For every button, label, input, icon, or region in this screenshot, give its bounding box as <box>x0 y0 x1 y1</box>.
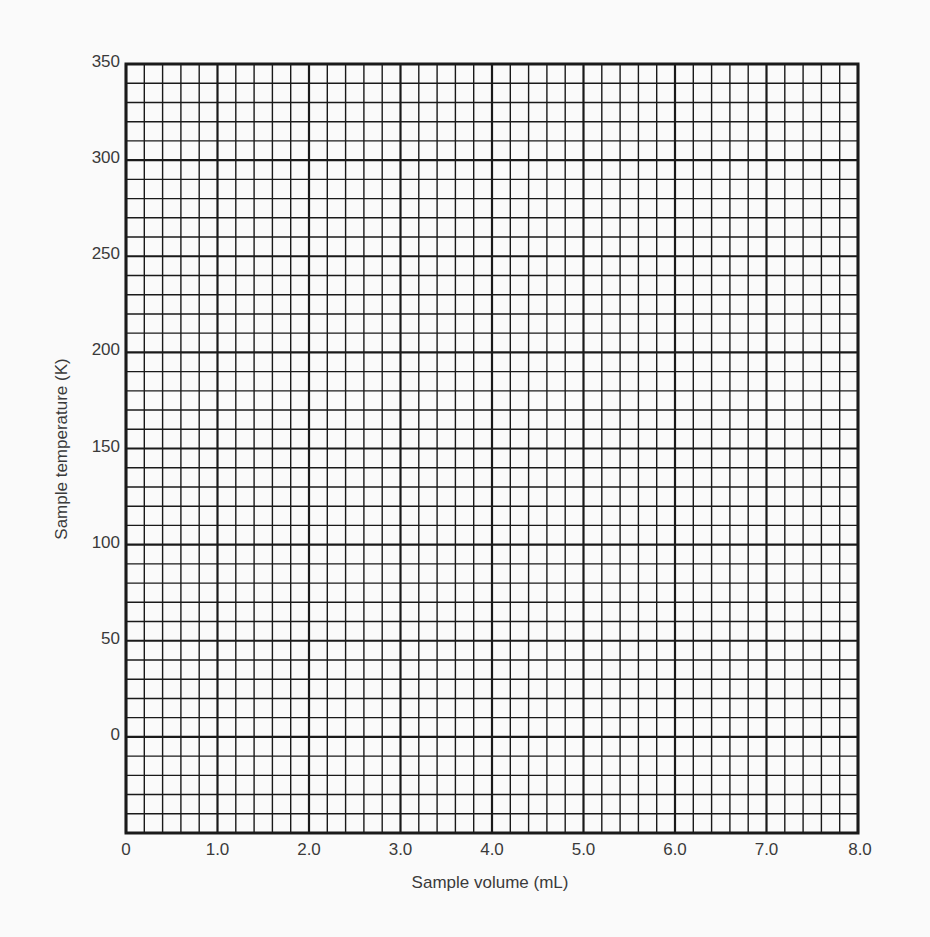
y-tick-label: 200 <box>70 340 120 360</box>
y-tick-label: 150 <box>70 437 120 457</box>
x-tick-label: 2.0 <box>279 840 339 860</box>
y-tick-label: 0 <box>70 725 120 745</box>
x-axis-label: Sample volume (mL) <box>412 873 569 893</box>
y-tick-label: 100 <box>70 533 120 553</box>
x-tick-label: 1.0 <box>188 840 248 860</box>
x-tick-label: 4.0 <box>462 840 522 860</box>
x-tick-label: 3.0 <box>371 840 431 860</box>
y-tick-label: 300 <box>70 148 120 168</box>
y-tick-label: 350 <box>70 52 120 72</box>
x-tick-label: 6.0 <box>645 840 705 860</box>
x-tick-label: 7.0 <box>737 840 797 860</box>
grid <box>0 0 930 937</box>
x-tick-label: 0 <box>96 840 156 860</box>
y-axis-label: Sample temperature (K) <box>52 358 72 539</box>
graph-paper-chart: 350300250200150100500 01.02.03.04.05.06.… <box>0 0 930 937</box>
x-tick-label: 5.0 <box>554 840 614 860</box>
y-tick-label: 50 <box>70 629 120 649</box>
x-tick-label: 8.0 <box>830 840 890 860</box>
y-tick-label: 250 <box>70 244 120 264</box>
